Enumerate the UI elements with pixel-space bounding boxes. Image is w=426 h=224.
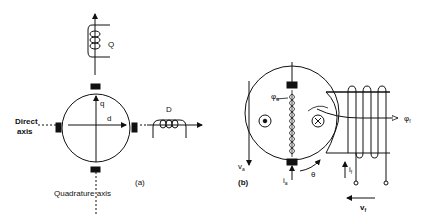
brush-bottom <box>91 167 100 172</box>
figure-b-caption: (b) <box>238 178 249 187</box>
direct-axis-label-line2: axis <box>17 127 33 136</box>
phi-f-label: φf <box>404 114 411 124</box>
direct-axis-label-line1: Direct <box>15 117 38 126</box>
figure-a-caption: (a) <box>135 178 145 187</box>
field-coil <box>348 86 386 183</box>
quadrature-axis-label: Quadrature axis <box>54 189 111 198</box>
brush-top <box>91 84 100 89</box>
figure-a <box>38 14 202 215</box>
armature-coil <box>290 90 295 157</box>
d-axis-label: d <box>107 114 111 123</box>
brush-left <box>56 123 61 132</box>
q-coil <box>88 25 110 57</box>
field-terminal-right <box>384 181 388 185</box>
d-coil-label: D <box>166 105 172 114</box>
if-label: if <box>349 165 353 175</box>
va-label: va <box>238 162 245 172</box>
d-coil <box>147 120 202 138</box>
field-terminal-left <box>354 181 358 185</box>
figure-b <box>245 62 398 198</box>
theta-label: θ <box>311 170 316 179</box>
phi-a-label: φa <box>271 92 279 102</box>
ia-label: ia <box>283 176 288 186</box>
armature-brush-bottom <box>287 159 297 165</box>
theta-rotation-arrow <box>300 160 320 171</box>
q-coil-label: Q <box>108 40 114 49</box>
brush-right <box>132 123 137 132</box>
diagram-canvas: Q q d D Direct axis (a) Quadrature axis <box>0 0 426 224</box>
q-axis-label: q <box>100 99 104 108</box>
armature-brush-top <box>287 82 297 88</box>
vf-label: vf <box>360 203 366 213</box>
